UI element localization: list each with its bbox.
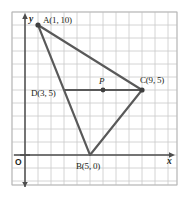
point-p-label: P <box>99 76 104 86</box>
y-axis-label: y <box>29 14 33 24</box>
point-p-dot <box>101 88 106 93</box>
point-a-dot <box>35 22 40 27</box>
coordinate-geometry-figure: y x O A(1, 10) B(5, 0) C(9, 5) D(3, 5) P <box>0 0 191 201</box>
x-axis-label: x <box>167 156 172 166</box>
point-d-label: D(3, 5) <box>31 88 56 98</box>
point-c-dot <box>139 87 144 92</box>
point-b-label: B(5, 0) <box>76 161 100 171</box>
point-c-label: C(9, 5) <box>140 75 164 85</box>
origin-label: O <box>15 157 22 167</box>
point-a-label: A(1, 10) <box>43 15 72 25</box>
